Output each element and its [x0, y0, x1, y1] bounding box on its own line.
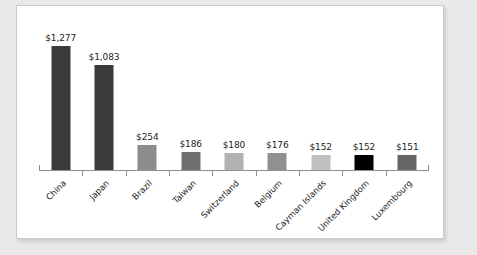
bar-group: $1,083 [82, 16, 125, 170]
bar-value-label: $152 [309, 142, 332, 152]
bar[interactable] [398, 155, 417, 170]
bar[interactable] [224, 153, 243, 170]
bar-value-label: $1,277 [45, 33, 76, 43]
bar-group: $254 [126, 16, 169, 170]
bar-value-label: $1,083 [89, 52, 120, 62]
x-axis-cap-right [428, 165, 429, 170]
bar-group: $1,277 [39, 16, 82, 170]
bar-value-label: $151 [396, 142, 419, 152]
bar-group: $176 [256, 16, 299, 170]
bar[interactable] [51, 46, 70, 170]
bar[interactable] [94, 65, 113, 170]
bar[interactable] [181, 152, 200, 170]
x-axis-tick [342, 171, 343, 176]
bar-group: $186 [169, 16, 212, 170]
x-axis-tick [386, 171, 387, 176]
category-label[interactable]: China [0, 178, 68, 255]
bar-group: $152 [342, 16, 385, 170]
x-axis-cap-left [39, 165, 40, 170]
x-axis-line [39, 170, 429, 171]
bar-group: $152 [299, 16, 342, 170]
x-axis-tick [212, 171, 213, 176]
bar[interactable] [354, 155, 373, 170]
bar-value-label: $176 [266, 140, 289, 150]
bar[interactable] [311, 155, 330, 170]
bar-value-label: $152 [353, 142, 376, 152]
bar-group: $180 [212, 16, 255, 170]
bar-value-label: $180 [223, 140, 246, 150]
x-axis-tick [299, 171, 300, 176]
bar[interactable] [268, 153, 287, 170]
bar-value-label: $254 [136, 132, 159, 142]
bar-group: $151 [386, 16, 429, 170]
x-axis-tick [82, 171, 83, 176]
x-axis-tick [126, 171, 127, 176]
x-axis-tick [256, 171, 257, 176]
plot-area: $1,277$1,083$254$186$180$176$152$152$151… [39, 16, 429, 231]
bar-value-label: $186 [179, 139, 202, 149]
screenshot-canvas: $1,277$1,083$254$186$180$176$152$152$151… [0, 0, 477, 255]
bar[interactable] [138, 145, 157, 170]
chart-panel: $1,277$1,083$254$186$180$176$152$152$151… [16, 5, 444, 239]
x-axis-tick [169, 171, 170, 176]
